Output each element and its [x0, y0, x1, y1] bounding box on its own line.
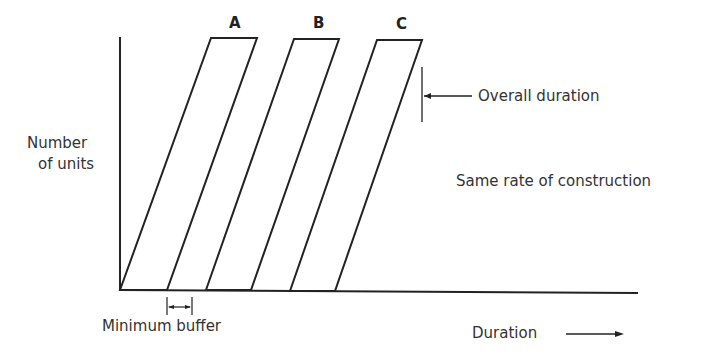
arrow-right-icon: [185, 305, 191, 309]
overall-duration-label: Overall duration: [478, 87, 600, 105]
bar-c-parallelogram: [290, 40, 422, 291]
bar-a-parallelogram: [120, 38, 257, 290]
bar-b-parallelogram: [206, 39, 339, 290]
bar-label-a: A: [229, 14, 241, 32]
x-axis-label: Duration: [472, 324, 537, 342]
arrow-left-icon: [168, 305, 174, 309]
x-axis: [119, 290, 638, 293]
bar-label-b: B: [313, 14, 324, 32]
arrow-right-icon: [615, 331, 624, 337]
bar-label-c: C: [396, 15, 407, 33]
same-rate-label: Same rate of construction: [456, 172, 651, 190]
minimum-buffer-label: Minimum buffer: [102, 317, 221, 335]
y-axis-label-line1: Number: [27, 134, 87, 152]
arrow-left-icon: [424, 93, 431, 99]
y-axis-label-line2: of units: [38, 155, 94, 173]
